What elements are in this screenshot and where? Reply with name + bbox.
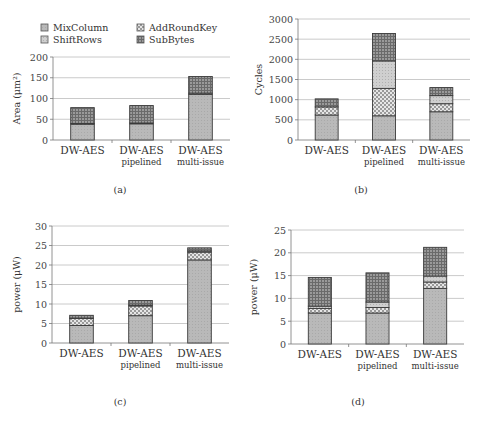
bar-segment-mixcolumn xyxy=(189,94,213,140)
legend-label-mixcolumn: MixColumn xyxy=(53,22,108,33)
bar-segment-subbytes xyxy=(188,248,212,251)
x-category-label: DW-AES xyxy=(362,144,406,156)
x-category-label: DW-AES xyxy=(59,347,103,359)
legend: MixColumn ShiftRows AddRoundKey SubBytes xyxy=(41,22,218,45)
figure: MixColumn ShiftRows AddRoundKey SubBytes… xyxy=(0,0,482,421)
y-axis-label: Cycles xyxy=(253,64,264,96)
legend-item-mixcolumn: MixColumn xyxy=(41,22,108,33)
bar-segment-mixcolumn xyxy=(129,316,153,343)
bar-segment-subbytes xyxy=(366,273,389,302)
bar-segment-mixcolumn xyxy=(71,124,95,140)
bar-segment-mixcolumn xyxy=(366,313,389,344)
bar-segment-mixcolumn xyxy=(315,115,338,140)
x-category-label: DW-AES xyxy=(413,348,457,360)
y-tick-label: 25 xyxy=(274,225,286,236)
bar-segment-subbytes xyxy=(373,34,396,61)
x-category-label: DW-AES xyxy=(119,144,163,156)
y-axis-label: Area (μm²) xyxy=(11,72,22,125)
legend-swatch-subbytes xyxy=(137,36,144,43)
bar-segment-addroundkey xyxy=(315,107,338,115)
x-category-sublabel: multi-issue xyxy=(418,157,465,167)
y-tick-label: 10 xyxy=(274,293,286,304)
subfigure-caption: (b) xyxy=(354,184,368,195)
y-axis-label: power (μW) xyxy=(248,259,259,315)
y-tick-label: 15 xyxy=(35,279,47,290)
x-category-label: DW-AES xyxy=(355,348,399,360)
legend-swatch-mixcolumn xyxy=(41,24,48,31)
x-category-sublabel: multi-issue xyxy=(176,360,223,370)
bar-segment-subbytes xyxy=(71,108,95,124)
y-tick-label: 15 xyxy=(274,270,286,281)
legend-label-addroundkey: AddRoundKey xyxy=(148,22,218,33)
y-tick-label: 25 xyxy=(35,240,47,251)
x-category-sublabel: pipelined xyxy=(357,361,398,371)
bar-segment-addroundkey xyxy=(424,282,447,288)
bar-segment-subbytes xyxy=(430,88,453,96)
bar-segment-addroundkey xyxy=(373,88,396,115)
y-tick-label: 0 xyxy=(41,338,47,349)
legend-label-shiftrows: ShiftRows xyxy=(53,34,102,45)
y-tick-label: 30 xyxy=(35,221,47,232)
y-tick-label: 50 xyxy=(36,114,48,125)
y-tick-label: 150 xyxy=(30,72,48,83)
bar-segment-subbytes xyxy=(308,277,331,306)
y-tick-label: 5 xyxy=(41,318,47,329)
y-tick-label: 200 xyxy=(30,52,48,63)
bar-segment-shiftrows xyxy=(366,302,389,307)
x-category-label: DW-AES xyxy=(298,348,342,360)
bar-segment-addroundkey xyxy=(129,306,153,316)
bar-segment-mixcolumn xyxy=(373,116,396,140)
y-tick-label: 1500 xyxy=(269,74,293,85)
bar-segment-addroundkey xyxy=(188,252,212,260)
x-category-sublabel: multi-issue xyxy=(177,157,224,167)
bar-segment-shiftrows xyxy=(373,61,396,88)
y-tick-label: 2000 xyxy=(269,54,293,65)
chart-power-c: 051015202530power (μW)DW-AESDW-AESpipeli… xyxy=(11,221,229,408)
bar-segment-addroundkey xyxy=(430,104,453,112)
y-tick-label: 0 xyxy=(280,339,286,350)
y-tick-label: 3000 xyxy=(269,14,293,25)
bar-segment-mixcolumn xyxy=(130,124,154,140)
legend-swatch-shiftrows xyxy=(41,36,48,43)
bar-segment-subbytes xyxy=(129,300,153,305)
y-tick-label: 1000 xyxy=(269,94,293,105)
x-category-label: DW-AES xyxy=(419,144,463,156)
bar-segment-mixcolumn xyxy=(188,260,212,343)
bar-segment-mixcolumn xyxy=(430,112,453,140)
chart-cycles: 050010001500200025003000CyclesDW-AESDW-A… xyxy=(253,14,470,196)
x-category-label: DW-AES xyxy=(177,347,221,359)
x-category-label: DW-AES xyxy=(60,144,104,156)
legend-item-addroundkey: AddRoundKey xyxy=(137,22,218,33)
x-category-label: DW-AES xyxy=(178,144,222,156)
chart-power-d: 0510152025power (μW)DW-AESDW-AESpipeline… xyxy=(248,225,464,408)
legend-label-subbytes: SubBytes xyxy=(149,34,194,45)
y-tick-label: 0 xyxy=(42,135,48,146)
bar-segment-addroundkey xyxy=(308,308,331,313)
y-tick-label: 500 xyxy=(275,114,293,125)
y-tick-label: 20 xyxy=(35,260,47,271)
bar-segment-mixcolumn xyxy=(70,325,94,343)
bar-segment-shiftrows xyxy=(424,276,447,282)
x-category-label: DW-AES xyxy=(118,347,162,359)
legend-swatch-addroundkey xyxy=(137,24,144,31)
y-tick-label: 10 xyxy=(35,299,47,310)
bar-segment-subbytes xyxy=(424,247,447,276)
x-category-sublabel: multi-issue xyxy=(412,361,459,371)
bar-segment-mixcolumn xyxy=(308,313,331,344)
x-category-sublabel: pipelined xyxy=(364,157,405,167)
x-category-sublabel: pipelined xyxy=(120,360,161,370)
subfigure-caption: (d) xyxy=(351,396,365,407)
subfigure-caption: (c) xyxy=(114,396,127,407)
bar-segment-subbytes xyxy=(130,106,154,123)
bar-segment-subbytes xyxy=(189,77,213,94)
y-tick-label: 2500 xyxy=(269,34,293,45)
subfigure-caption: (a) xyxy=(113,184,126,195)
legend-item-subbytes: SubBytes xyxy=(137,34,194,45)
y-tick-label: 20 xyxy=(274,247,286,258)
chart-area: 050100150200Area (μm²)DW-AESDW-AESpipeli… xyxy=(11,52,230,196)
bar-segment-subbytes xyxy=(315,99,338,107)
bar-segment-mixcolumn xyxy=(424,288,447,344)
y-axis-label: power (μW) xyxy=(11,256,22,312)
bar-segment-addroundkey xyxy=(366,308,389,313)
x-category-label: DW-AES xyxy=(304,144,348,156)
